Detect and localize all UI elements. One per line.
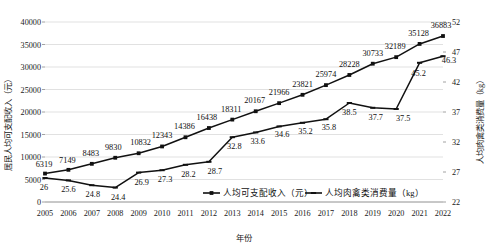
data-point-marker [347, 102, 352, 104]
data-label: 36883 [431, 21, 452, 30]
right-tick-label: 42 [452, 78, 460, 87]
x-tick-label: 2011 [177, 209, 193, 218]
data-label: 21966 [269, 88, 290, 97]
data-point-marker [89, 184, 94, 186]
data-point-marker [42, 177, 47, 179]
data-point-marker [323, 118, 328, 120]
data-point-marker [394, 55, 398, 59]
right-axis-tick-labels: 22273237424752 [452, 18, 460, 207]
data-point-marker [277, 125, 282, 127]
x-tick-label: 2019 [365, 209, 381, 218]
data-point-marker [277, 101, 281, 105]
data-point-marker [230, 136, 235, 138]
x-axis-tick-labels: 2005200620072008200920102011201220132014… [37, 209, 451, 218]
left-tick-label: 30000 [21, 63, 41, 72]
data-label: 6319 [36, 160, 53, 169]
right-tick-label: 22 [452, 198, 460, 207]
data-point-marker [207, 126, 211, 130]
chart-legend[interactable]: 人均可支配收入（元）人均肉禽类消费量（kg） [203, 187, 424, 198]
data-label: 30733 [362, 49, 383, 58]
data-point-marker [417, 62, 422, 64]
data-label: 24.8 [86, 190, 101, 199]
data-point-marker [418, 42, 422, 46]
left-tick-label: 25000 [21, 86, 41, 95]
data-point-marker [206, 161, 211, 163]
left-axis-tick-labels: 0500010000150002000025000300003500040000 [21, 18, 41, 207]
x-tick-label: 2013 [224, 209, 240, 218]
x-tick-label: 2010 [154, 209, 170, 218]
data-label: 23821 [292, 80, 313, 89]
data-label: 35128 [408, 29, 429, 38]
data-label: 46.3 [442, 56, 457, 65]
data-point-marker [230, 118, 234, 122]
data-point-marker [66, 179, 71, 181]
data-point-marker [370, 107, 375, 109]
data-label: 32189 [385, 42, 406, 51]
data-point-marker [254, 109, 258, 113]
data-point-marker [160, 145, 164, 149]
x-tick-label: 2006 [60, 209, 76, 218]
series-group [42, 34, 445, 188]
x-tick-label: 2015 [271, 209, 287, 218]
x-tick-label: 2005 [37, 209, 53, 218]
data-label: 45.2 [411, 69, 426, 78]
data-point-marker [113, 187, 118, 189]
left-axis-title: 居民人均可支配收入（元） [3, 75, 13, 171]
left-tick-label: 35000 [21, 41, 41, 50]
left-tick-label: 0 [37, 198, 41, 207]
data-label: 32.8 [227, 142, 242, 151]
right-tick-label: 52 [452, 18, 460, 27]
data-label: 27.3 [158, 175, 173, 184]
data-label: 26.9 [134, 178, 149, 187]
series-line-2 [45, 56, 443, 187]
data-label: 28228 [339, 60, 360, 69]
data-point-marker [441, 34, 445, 38]
x-tick-label: 2016 [294, 209, 310, 218]
x-tick-label: 2020 [388, 209, 404, 218]
data-point-marker [137, 151, 141, 155]
data-point-marker [90, 162, 94, 166]
data-label: 25974 [316, 70, 338, 79]
data-label: 34.6 [275, 130, 290, 139]
data-label: 10832 [130, 138, 151, 147]
data-label: 35.2 [298, 127, 313, 136]
data-label: 20167 [244, 96, 265, 105]
data-label: 14386 [174, 122, 195, 131]
data-label: 38.5 [342, 108, 357, 117]
x-tick-label: 2018 [341, 209, 357, 218]
x-tick-label: 2008 [107, 209, 123, 218]
x-tick-label: 2021 [411, 209, 427, 218]
data-point-marker [113, 156, 117, 160]
data-point-marker [324, 83, 328, 87]
data-label: 37.7 [368, 113, 383, 122]
dual-axis-line-chart: 0500010000150002000025000300003500040000… [0, 0, 493, 246]
right-axis-title: 人均肉禽类消费量（kg） [475, 76, 485, 164]
data-point-marker [159, 169, 164, 171]
x-axis-title: 年份 [236, 233, 253, 243]
data-label: 37.5 [396, 114, 411, 123]
data-point-marker [183, 164, 188, 166]
left-tick-label: 20000 [21, 108, 41, 117]
data-point-marker [300, 122, 305, 124]
data-point-marker [184, 135, 188, 139]
data-label: 35.8 [322, 123, 337, 132]
x-tick-label: 2012 [201, 209, 217, 218]
data-label: 28.2 [181, 170, 196, 179]
x-tick-label: 2009 [130, 209, 146, 218]
data-label: 12343 [152, 131, 173, 140]
data-label: 33.6 [250, 137, 265, 146]
data-label: 9830 [105, 143, 122, 152]
data-label: 28.7 [208, 167, 223, 176]
left-tick-label: 15000 [21, 131, 41, 140]
data-point-marker [371, 62, 375, 66]
x-tick-label: 2007 [84, 209, 100, 218]
legend-label-1[interactable]: 人均可支配收入（元） [223, 187, 313, 198]
right-tick-label: 27 [452, 168, 460, 177]
data-point-marker [301, 93, 305, 97]
data-label: 26 [40, 183, 48, 192]
x-tick-label: 2022 [435, 209, 451, 218]
data-label: 24.4 [111, 193, 126, 202]
left-tick-label: 40000 [21, 18, 41, 27]
legend-label-2[interactable]: 人均肉禽类消费量（kg） [325, 187, 424, 198]
data-label: 18311 [221, 105, 241, 114]
